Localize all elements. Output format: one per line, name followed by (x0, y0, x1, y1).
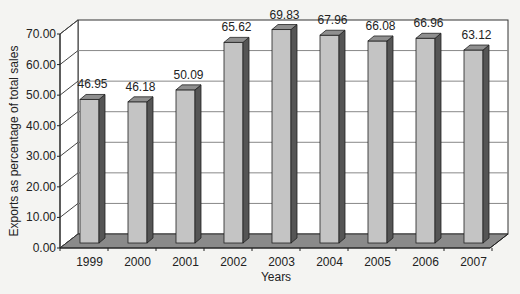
bar-front (224, 42, 243, 243)
x-tick-label: 2000 (124, 255, 151, 269)
x-tick-label: 2005 (364, 255, 391, 269)
y-tick-label: 40.00 (26, 119, 56, 133)
y-tick-label: 20.00 (26, 180, 56, 194)
x-tick-label: 2003 (268, 255, 295, 269)
y-tick-label: 70.00 (26, 27, 56, 41)
data-label: 63.12 (461, 28, 491, 42)
y-tick-label: 0.00 (33, 241, 57, 255)
bar-front (272, 30, 291, 243)
y-tick-label: 60.00 (26, 58, 56, 72)
bar-2001 (176, 85, 201, 243)
bar-2005 (368, 36, 393, 243)
bar-front (464, 50, 483, 243)
y-axis-title: Exports as percentage of total sales (7, 46, 21, 237)
bar-2003 (272, 25, 297, 243)
data-label: 65.62 (221, 20, 251, 34)
x-tick-label: 2002 (220, 255, 247, 269)
bar-side (387, 36, 393, 243)
data-label: 69.83 (269, 8, 299, 22)
data-label: 46.95 (77, 77, 107, 91)
side-wall (60, 20, 78, 248)
bar-front (368, 41, 387, 243)
x-tick-label: 2004 (316, 255, 343, 269)
x-axis-title: Years (261, 270, 291, 284)
x-tick-label: 2007 (460, 255, 487, 269)
bar-2002 (224, 37, 249, 243)
data-label: 66.96 (413, 16, 443, 30)
y-tick-label: 10.00 (26, 210, 56, 224)
x-tick-label: 2006 (412, 255, 439, 269)
bar-side (435, 33, 441, 243)
bar-side (291, 25, 297, 243)
bar-1999 (80, 94, 105, 243)
data-label: 50.09 (173, 68, 203, 82)
bar-side (483, 45, 489, 243)
x-tick-label: 1999 (76, 255, 103, 269)
bar-side (195, 85, 201, 243)
data-label: 67.96 (317, 13, 347, 27)
bar-front (80, 99, 99, 243)
bar-chart: 1999200020012002200320042005200620070.00… (0, 0, 520, 294)
bar-front (128, 102, 147, 243)
bar-side (147, 97, 153, 243)
x-tick-label: 2001 (172, 255, 199, 269)
bar-2000 (128, 97, 153, 243)
y-tick-label: 50.00 (26, 88, 56, 102)
bar-front (176, 90, 195, 243)
y-tick-label: 30.00 (26, 149, 56, 163)
bar-side (339, 30, 345, 243)
bar-2004 (320, 30, 345, 243)
bar-front (320, 35, 339, 243)
bar-2007 (464, 45, 489, 243)
bar-side (99, 94, 105, 243)
bar-front (416, 38, 435, 243)
bar-2006 (416, 33, 441, 243)
bar-side (243, 37, 249, 243)
data-label: 46.18 (125, 80, 155, 94)
data-label: 66.08 (365, 19, 395, 33)
